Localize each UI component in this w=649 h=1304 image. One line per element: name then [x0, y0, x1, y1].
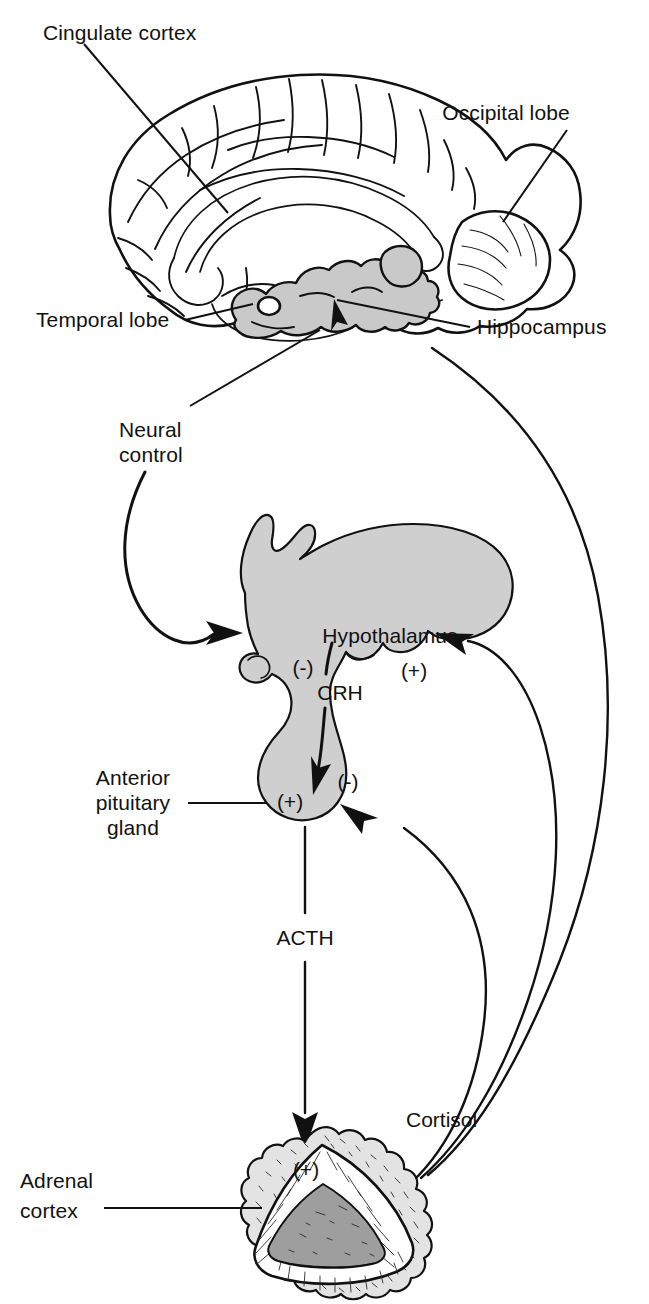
label-anterior-pituitary-line3: gland	[107, 816, 159, 839]
label-anterior-pituitary-line1: Anterior	[96, 766, 170, 789]
label-neural-control-line2: control	[119, 443, 183, 466]
label-adrenal-cortex-line1: Adrenal	[20, 1169, 93, 1192]
sign-pituitary-negative: (-)	[338, 770, 359, 793]
sign-hypothalamus-positive: (+)	[401, 659, 427, 682]
hippocampus-tail-shaded	[381, 246, 422, 287]
sign-pituitary-positive: (+)	[277, 790, 303, 813]
mammillary-body	[258, 297, 280, 315]
label-neural-control-line1: Neural	[119, 418, 181, 441]
cerebellum	[449, 211, 551, 309]
label-adrenal-cortex-line2: cortex	[20, 1199, 78, 1222]
label-cortisol: Cortisol	[406, 1108, 477, 1131]
label-hippocampus: Hippocampus	[477, 315, 607, 338]
label-anterior-pituitary-line2: pituitary	[96, 791, 171, 814]
hpa-axis-figure: Cingulate cortex Occipital lobe Temporal…	[0, 0, 649, 1304]
label-acth: ACTH	[276, 926, 333, 949]
label-cingulate-cortex: Cingulate cortex	[43, 21, 197, 44]
label-crh: CRH	[317, 681, 363, 704]
sign-hypothalamus-negative: (-)	[293, 656, 314, 679]
label-temporal-lobe: Temporal lobe	[36, 308, 169, 331]
sign-adrenal-positive: (+)	[293, 1158, 319, 1181]
label-hypothalamus: Hypothalamus	[322, 624, 457, 647]
label-occipital-lobe: Occipital lobe	[442, 101, 569, 124]
hpa-axis-svg: Cingulate cortex Occipital lobe Temporal…	[0, 0, 649, 1304]
